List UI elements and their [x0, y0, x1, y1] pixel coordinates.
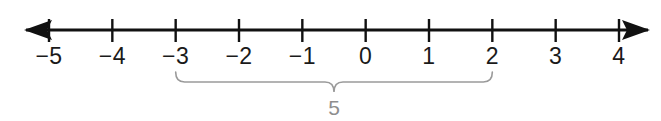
tick-label: 3	[549, 45, 562, 68]
tick-label: −2	[225, 45, 252, 68]
tick-label: −3	[162, 45, 189, 68]
brace-value-label: 5	[328, 97, 340, 118]
tick-label: −5	[35, 45, 62, 68]
measure-brace	[176, 72, 493, 92]
tick-label: 2	[486, 45, 499, 68]
tick-label: 0	[359, 45, 372, 68]
tick-label: −4	[99, 45, 126, 68]
brace-path	[176, 72, 493, 92]
tick-label: −1	[289, 45, 316, 68]
number-line-figure: −5−4−3−2−101234 5	[0, 0, 661, 121]
tick-label: 4	[612, 45, 625, 68]
tick-label: 1	[422, 45, 435, 68]
